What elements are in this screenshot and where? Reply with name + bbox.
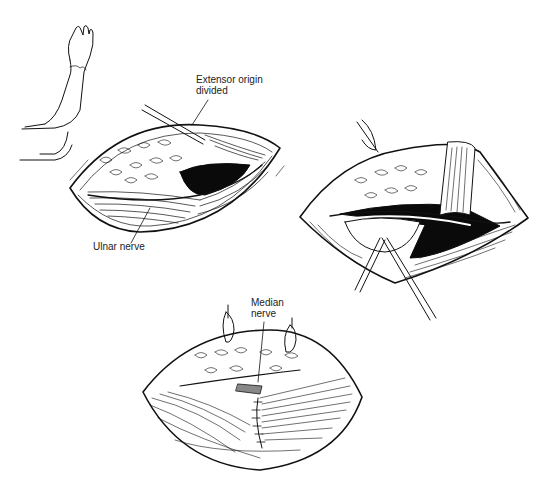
panel-3-exposure — [143, 305, 362, 470]
label-line: nerve — [251, 308, 284, 319]
surgical-illustration: Extensor origin divided Ulnar nerve Medi… — [0, 0, 549, 494]
illustration-drawing — [0, 0, 549, 494]
label-line: Ulnar nerve — [93, 241, 145, 252]
panel-1-exposure — [70, 100, 284, 243]
label-median-nerve: Median nerve — [251, 297, 284, 319]
arm-position-sketch — [20, 26, 93, 160]
label-line: Median — [251, 297, 284, 308]
label-extensor-origin-divided: Extensor origin divided — [196, 74, 263, 96]
label-line: Extensor origin — [196, 74, 263, 85]
label-ulnar-nerve: Ulnar nerve — [93, 241, 145, 252]
panel-2-exposure — [300, 120, 528, 320]
label-line: divided — [196, 85, 263, 96]
